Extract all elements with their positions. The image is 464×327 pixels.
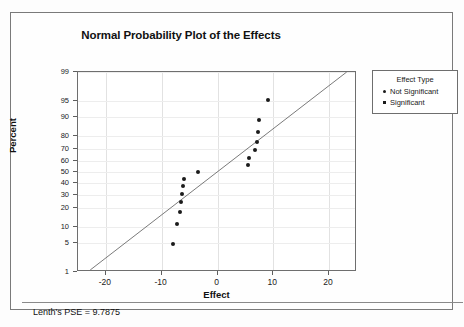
data-point (181, 184, 185, 188)
x-tick-label: -10 (146, 277, 176, 287)
x-tick-mark (328, 271, 329, 275)
y-tick-label: 5 (47, 238, 69, 247)
y-tick-mark (73, 271, 77, 272)
gridline-horizontal (78, 149, 355, 150)
y-tick-label: 50 (47, 167, 69, 176)
legend-entry-label: Not Significant (390, 87, 438, 96)
legend-entry-1[interactable]: Not Significant (378, 86, 452, 97)
x-tick-mark (105, 271, 106, 275)
data-point (246, 163, 250, 167)
legend: Effect Type Not SignificantSignificant (372, 70, 458, 114)
x-tick-label: -20 (90, 277, 120, 287)
y-tick-label: 95 (47, 96, 69, 105)
x-tick-label: 10 (257, 277, 287, 287)
page-title: Normal Probability Plot of the Effects (11, 29, 351, 41)
x-tick-mark (161, 271, 162, 275)
square-marker-icon (378, 101, 390, 104)
y-tick-label: 80 (47, 131, 69, 140)
data-point (255, 140, 259, 144)
plot-inner (78, 72, 355, 270)
plot-area (77, 71, 356, 271)
footer-divider (22, 302, 463, 303)
data-point (247, 156, 251, 160)
y-tick-label: 10 (47, 222, 69, 231)
data-point (266, 98, 270, 102)
legend-entries: Not SignificantSignificant (378, 86, 452, 108)
legend-title: Effect Type (378, 75, 452, 84)
gridline-horizontal (78, 243, 355, 244)
gridline-horizontal (78, 117, 355, 118)
graph-window: Normal Probability Plot of the Effects P… (10, 12, 453, 310)
legend-entry-2[interactable]: Significant (378, 97, 452, 108)
gridline-horizontal (78, 72, 355, 73)
gridline-horizontal (78, 101, 355, 102)
legend-entry-label: Significant (390, 98, 425, 107)
lenth-pse-annotation: Lenth's PSE = 9.7875 (33, 307, 120, 317)
graph-page: Normal Probability Plot of the Effects P… (0, 0, 464, 327)
x-tick-mark (272, 271, 273, 275)
y-tick-label: 60 (47, 156, 69, 165)
y-tick-label: 40 (47, 178, 69, 187)
x-tick-label: 20 (313, 277, 343, 287)
data-point (178, 210, 182, 214)
y-axis-title: Percent (7, 118, 18, 153)
data-point (180, 192, 184, 196)
y-tick-label: 99 (47, 67, 69, 76)
gridline-horizontal (78, 136, 355, 137)
data-point (179, 200, 183, 204)
y-tick-label: 1 (47, 267, 69, 276)
gridline-horizontal (78, 227, 355, 228)
y-tick-label: 20 (47, 203, 69, 212)
x-tick-mark (217, 271, 218, 275)
x-tick-label: 0 (202, 277, 232, 287)
data-point (182, 177, 186, 181)
circle-marker-icon (378, 90, 390, 93)
y-tick-label: 30 (47, 190, 69, 199)
data-point (257, 118, 261, 122)
gridline-horizontal (78, 208, 355, 209)
data-point (171, 242, 175, 246)
gridline-horizontal (78, 161, 355, 162)
data-point (196, 170, 200, 174)
gridline-horizontal (78, 195, 355, 196)
data-point (256, 130, 260, 134)
gridline-horizontal (78, 183, 355, 184)
y-tick-label: 90 (47, 112, 69, 121)
data-point (175, 222, 179, 226)
y-tick-label: 70 (47, 144, 69, 153)
data-point (253, 148, 257, 152)
gridline-horizontal (78, 172, 355, 173)
x-axis-title: Effect (77, 289, 356, 300)
